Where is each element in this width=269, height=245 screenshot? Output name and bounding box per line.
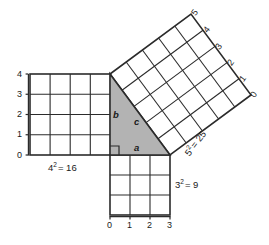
diagram-canvas: 4 3 2 1 0 42= 16 0 1 2 3 32= 9 5 4 3 2 1…: [0, 0, 269, 245]
left-square-caption: 42= 16: [48, 163, 77, 173]
bottom-square-caption-rest: = 9: [185, 179, 198, 190]
left-axis-tick-3: 3: [17, 90, 22, 99]
left-axis-tick-2: 2: [17, 110, 22, 119]
bottom-axis-tick-1: 1: [127, 221, 132, 230]
triangle-leg-b-label: b: [113, 110, 119, 120]
left-square-caption-exponent: 2: [53, 161, 57, 168]
bottom-axis-tick-0: 0: [107, 221, 112, 230]
bottom-square-outline: [110, 155, 170, 215]
left-axis-tick-0: 0: [17, 151, 22, 160]
bottom-axis-tick-3: 3: [167, 221, 172, 230]
left-axis-tick-1: 1: [17, 130, 22, 139]
bottom-square-9: [109, 155, 170, 219]
left-square-16: [26, 74, 111, 156]
left-axis-tick-4: 4: [17, 70, 22, 79]
triangle-leg-a-label: a: [134, 143, 139, 153]
triangle-hypotenuse-c-label: c: [134, 117, 139, 127]
bottom-square-caption: 32= 9: [175, 180, 198, 190]
left-square-axis: [26, 74, 29, 156]
bottom-square-axis: [109, 217, 170, 220]
bottom-axis-tick-2: 2: [147, 221, 152, 230]
left-square-caption-rest: = 16: [58, 162, 77, 173]
bottom-square-caption-exponent: 2: [180, 178, 184, 185]
